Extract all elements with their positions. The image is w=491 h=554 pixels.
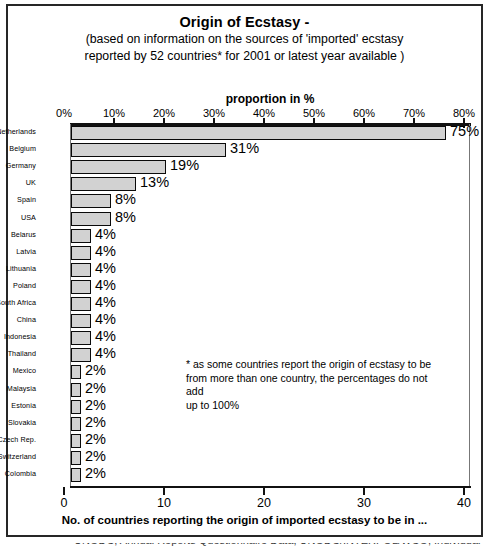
bar (71, 434, 81, 448)
bar (71, 417, 81, 431)
bar (71, 348, 91, 362)
bar (71, 143, 226, 157)
bar (71, 126, 446, 140)
bar-value-label: 4% (95, 277, 116, 293)
bar (71, 365, 81, 379)
bar-value-label: 13% (140, 174, 169, 190)
bottom-tick-label: 40 (457, 496, 471, 510)
category-label: China (17, 315, 36, 324)
bar (71, 280, 91, 294)
category-label: UK (26, 178, 36, 187)
bar-value-label: 4% (95, 345, 116, 361)
category-label: Czech Rep. (0, 435, 36, 444)
bar-value-label: 4% (95, 328, 116, 344)
bar-row: Colombia2% (71, 466, 469, 485)
bar-value-label: 4% (95, 243, 116, 259)
category-label: South Africa (0, 298, 36, 307)
bar-value-label: 2% (85, 414, 106, 430)
bottom-axis-line (70, 486, 471, 488)
bottom-tick-label: 30 (357, 496, 371, 510)
subtitle-line-1: (based on information on the sources of … (8, 31, 481, 48)
footnote-annotation: * as some countries report the origin of… (186, 358, 436, 412)
bottom-tick-mark (463, 487, 465, 495)
bar-value-label: 31% (230, 140, 259, 156)
category-label: Belgium (9, 144, 36, 153)
bar (71, 314, 91, 328)
bar-value-label: 2% (85, 397, 106, 413)
category-label: Thailand (8, 349, 36, 358)
bar-value-label: 4% (95, 226, 116, 242)
top-tick-label: 0% (56, 107, 72, 119)
bar-value-label: 2% (85, 362, 106, 378)
source-note-text: UNODC, Annual Reports Questionnaire Data… (74, 543, 481, 546)
x-axis-label: No. of countries reporting the origin of… (8, 514, 481, 526)
bar (71, 383, 81, 397)
bar-value-label: 2% (85, 380, 106, 396)
bottom-tick-label: 10 (157, 496, 171, 510)
top-axis-title: proportion in % (70, 92, 470, 106)
bar-value-label: 8% (115, 191, 136, 207)
bottom-tick-mark (63, 487, 65, 495)
bar-value-label: 19% (170, 157, 199, 173)
bar-value-label: 4% (95, 260, 116, 276)
source-note-clipped: UNODC, Annual Reports Questionnaire Data… (0, 543, 491, 554)
chart-figure: Origin of Ecstasy - (based on informatio… (6, 4, 483, 537)
bar-value-label: 4% (95, 294, 116, 310)
bottom-tick-mark (363, 487, 365, 495)
plot-area: Netherlands75%Belgium31%Germany19%UK13%S… (70, 124, 470, 486)
bar-value-label: 2% (85, 431, 106, 447)
bar-value-label: 75% (450, 123, 479, 139)
category-label: Lithuania (6, 264, 36, 273)
category-label: Switzerland (0, 452, 36, 461)
bar (71, 212, 111, 226)
footnote-line-3: up to 100% (186, 399, 436, 413)
category-label: Malaysia (7, 384, 36, 393)
category-label: Germany (6, 161, 36, 170)
bar-value-label: 8% (115, 209, 136, 225)
bar (71, 451, 81, 465)
bar (71, 177, 136, 191)
bar (71, 246, 91, 260)
category-label: Slovakia (8, 418, 36, 427)
category-label: Latvia (16, 247, 36, 256)
category-label: Belarus (11, 230, 36, 239)
bar-value-label: 2% (85, 465, 106, 481)
title-block: Origin of Ecstasy - (based on informatio… (8, 13, 481, 64)
bar (71, 400, 81, 414)
bottom-tick-label: 0 (61, 496, 68, 510)
bottom-tick-label: 20 (257, 496, 271, 510)
bar-value-label: 4% (95, 311, 116, 327)
bar-value-label: 2% (85, 448, 106, 464)
top-axis-ticklabels: 0%10%20%30%40%50%60%70%80% (8, 107, 481, 121)
bar (71, 194, 111, 208)
category-label: Mexico (13, 366, 36, 375)
category-label: Indonesia (4, 332, 36, 341)
category-label: Colombia (5, 469, 36, 478)
bar (71, 229, 91, 243)
bar (71, 263, 91, 277)
bar (71, 331, 91, 345)
bar (71, 160, 166, 174)
page-title: Origin of Ecstasy - (8, 13, 481, 31)
category-label: USA (21, 213, 36, 222)
category-label: Estonia (11, 401, 36, 410)
category-label: Spain (17, 195, 36, 204)
bar (71, 468, 81, 482)
footnote-line-1: * as some countries report the origin of… (186, 358, 436, 372)
footnote-line-2: from more than one country, the percenta… (186, 372, 436, 399)
category-label: Netherlands (0, 127, 36, 136)
category-label: Poland (13, 281, 36, 290)
subtitle-line-2: reported by 52 countries* for 2001 or la… (8, 48, 481, 65)
bottom-tick-mark (263, 487, 265, 495)
bar (71, 297, 91, 311)
bottom-tick-mark (163, 487, 165, 495)
